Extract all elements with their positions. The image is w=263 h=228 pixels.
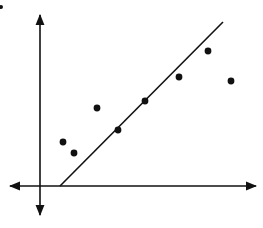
data-point <box>176 74 183 81</box>
data-points <box>60 48 235 157</box>
data-point <box>60 139 67 146</box>
scatter-plot <box>0 0 263 228</box>
data-point <box>71 150 78 157</box>
data-point <box>94 105 101 112</box>
scatter-plot-figure <box>0 0 263 228</box>
trend-line <box>60 22 223 186</box>
corner-dot <box>0 5 3 9</box>
data-point <box>205 48 212 55</box>
data-point <box>115 127 122 134</box>
data-point <box>228 78 235 85</box>
data-point <box>142 98 149 105</box>
